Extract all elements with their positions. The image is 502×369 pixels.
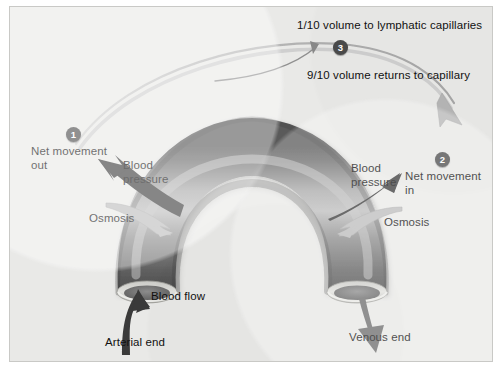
label-osmosis-right: Osmosis [384, 216, 429, 230]
capillary-exchange-figure: 1 2 3 1/10 volume to lymphatic capillari… [0, 0, 502, 369]
marker-1[interactable]: 1 [66, 127, 81, 142]
label-blood-flow: Blood flow [151, 290, 205, 304]
label-blood-pressure-right: Blood pressure [351, 162, 397, 189]
label-return-volume: 9/10 volume returns to capillary [307, 69, 470, 83]
label-arterial-end: Arterial end [105, 336, 165, 350]
blood-flow-out-arrow [358, 297, 384, 353]
label-net-movement-in: Net movement in [405, 170, 481, 197]
marker-2[interactable]: 2 [435, 152, 450, 167]
label-net-movement-out: Net movement out [31, 145, 107, 172]
label-blood-pressure-left: Blood pressure [123, 159, 169, 186]
label-venous-end: Venous end [349, 331, 411, 345]
label-lymph-volume: 1/10 volume to lymphatic capillaries [297, 19, 482, 33]
label-osmosis-left: Osmosis [89, 212, 134, 226]
capillary-vessel [118, 119, 387, 293]
marker-3[interactable]: 3 [333, 40, 348, 55]
illustration-panel: 1 2 3 1/10 volume to lymphatic capillari… [9, 6, 493, 362]
venous-opening [327, 281, 387, 303]
